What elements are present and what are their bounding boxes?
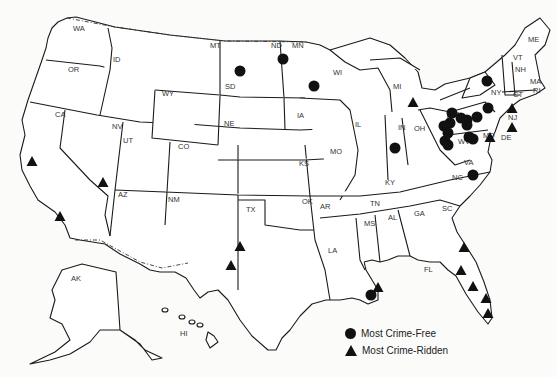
alaska-outline	[30, 264, 162, 364]
state-label-id: ID	[113, 55, 121, 64]
state-label-wa: WA	[73, 24, 85, 33]
us-crime-map: WAORIDMTNDMNSDWYNEIAWIMIILINOHNYPANJMDDE…	[0, 0, 557, 377]
state-label-nh: NH	[515, 65, 526, 74]
crime-free-circle-icon	[468, 134, 479, 145]
state-label-fl: FL	[424, 265, 433, 274]
crime-free-circle-icon	[447, 108, 458, 119]
state-label-ak: AK	[71, 274, 81, 283]
legend-label: Most Crime-Free	[361, 328, 436, 339]
state-label-sc: SC	[442, 204, 453, 213]
state-label-ga: GA	[414, 209, 425, 218]
state-label-mo: MO	[330, 147, 342, 156]
crime-free-circle-icon	[390, 143, 401, 154]
state-label-ok: OK	[302, 197, 313, 206]
state-label-mt: MT	[210, 41, 221, 50]
state-label-ks: KS	[299, 159, 309, 168]
state-label-or: OR	[68, 65, 80, 74]
state-label-ut: UT	[123, 136, 133, 145]
state-label-hi: HI	[180, 329, 188, 338]
crime-free-circle-icon	[472, 112, 483, 123]
crime-free-circle-icon	[309, 81, 320, 92]
filled-circle-icon	[345, 328, 356, 339]
filled-triangle-icon	[345, 345, 357, 356]
state-label-oh: OH	[414, 124, 425, 133]
state-label-ia: IA	[297, 111, 304, 120]
state-label-ny: NY	[491, 88, 501, 97]
state-label-nd: ND	[271, 41, 282, 50]
state-label-ky: KY	[385, 178, 395, 187]
state-label-ri: RI	[533, 86, 541, 95]
state-label-co: CO	[178, 142, 189, 151]
state-label-me: ME	[528, 35, 539, 44]
crime-free-circle-icon	[468, 170, 479, 181]
state-label-vt: VT	[513, 53, 523, 62]
state-label-wy: WY	[162, 89, 174, 98]
state-label-al: AL	[388, 213, 397, 222]
state-label-nv: NV	[112, 122, 122, 131]
state-label-sd: SD	[225, 82, 236, 91]
legend-item-crime-ridden: Most Crime-Ridden	[345, 342, 448, 359]
state-label-tn: TN	[370, 199, 380, 208]
state-label-ne: NE	[224, 119, 234, 128]
map-legend: Most Crime-Free Most Crime-Ridden	[345, 325, 448, 359]
state-label-nj: NJ	[508, 113, 517, 122]
state-label-mn: MN	[292, 41, 304, 50]
crime-ridden-triangle-icon	[507, 122, 518, 132]
state-label-ar: AR	[320, 202, 331, 211]
state-label-ma: MA	[530, 77, 541, 86]
state-label-la: LA	[328, 246, 337, 255]
state-label-mi: MI	[393, 82, 401, 91]
state-label-va: VA	[464, 158, 473, 167]
crime-free-circle-icon	[483, 103, 494, 114]
crime-free-circle-icon	[482, 76, 493, 87]
state-label-ca: CA	[55, 110, 65, 119]
state-label-il: IL	[355, 120, 361, 129]
state-label-nm: NM	[168, 195, 180, 204]
legend-label: Most Crime-Ridden	[362, 345, 448, 356]
state-label-tx: TX	[246, 205, 256, 214]
state-label-in: IN	[398, 123, 406, 132]
crime-free-circle-icon	[278, 54, 289, 65]
crime-free-circle-icon	[443, 140, 454, 151]
state-label-ms: MS	[364, 219, 375, 228]
state-label-de: DE	[501, 133, 511, 142]
state-label-az: AZ	[118, 190, 128, 199]
state-label-wi: WI	[333, 68, 342, 77]
state-label-ct: CT	[513, 90, 523, 99]
state-label-nc: NC	[452, 173, 463, 182]
legend-item-crime-free: Most Crime-Free	[345, 325, 448, 342]
crime-free-circle-icon	[235, 66, 246, 77]
hawaii-islands	[162, 308, 218, 348]
